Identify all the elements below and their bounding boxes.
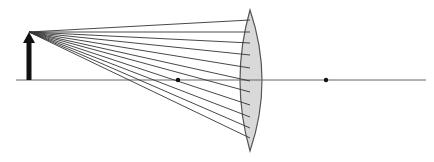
ray-line <box>29 32 250 138</box>
focal-point-dot <box>324 78 328 82</box>
ray-line <box>29 20 250 32</box>
ray-line <box>29 32 250 55</box>
ray-line <box>29 32 250 81</box>
object-arrow-icon <box>23 32 35 80</box>
ray-line <box>29 32 250 117</box>
light-rays <box>29 20 250 138</box>
ray-line <box>29 32 250 105</box>
object-arrow-shaft <box>27 42 32 80</box>
focal-point-dot <box>176 78 180 82</box>
lens-ray-diagram <box>0 0 434 162</box>
